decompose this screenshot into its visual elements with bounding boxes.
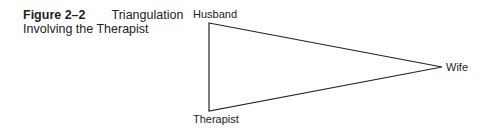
node-husband: Husband [193,8,237,20]
node-wife: Wife [446,61,468,73]
node-therapist: Therapist [193,113,239,125]
triangle-diagram [0,0,491,130]
triangle-edges [209,23,442,111]
